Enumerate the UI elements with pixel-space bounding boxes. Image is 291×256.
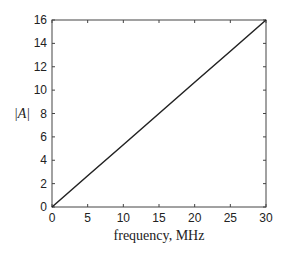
chart: 051015202530 0246810121416 frequency, MH…	[0, 0, 291, 256]
y-tick-label: 6	[40, 130, 47, 144]
y-axis-label: |A|	[14, 106, 30, 121]
x-tick-label: 0	[49, 211, 56, 225]
y-tick-label: 0	[40, 200, 47, 214]
y-tick-label: 4	[40, 153, 47, 167]
x-tick-label: 5	[84, 211, 91, 225]
y-tick-label: 14	[34, 36, 48, 50]
x-tick-label: 30	[259, 211, 273, 225]
y-tick-label: 2	[40, 177, 47, 191]
x-axis-label: frequency, MHz	[114, 228, 205, 243]
y-tick-label: 10	[34, 83, 48, 97]
x-tick-label: 25	[224, 211, 238, 225]
y-tick-label: 8	[40, 107, 47, 121]
x-tick-label: 10	[117, 211, 131, 225]
x-tick-label: 15	[152, 211, 166, 225]
x-tick-label: 20	[188, 211, 202, 225]
y-tick-label: 16	[34, 13, 48, 27]
y-tick-label: 12	[34, 60, 48, 74]
